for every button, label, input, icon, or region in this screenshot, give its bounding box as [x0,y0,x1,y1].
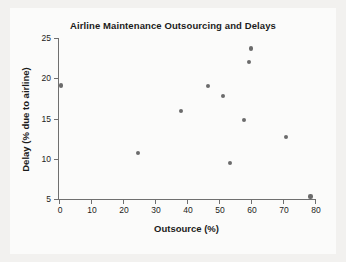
chart-figure: Airline Maintenance Outsourcing and Dela… [0,0,346,262]
x-axis-tick-label: 70 [279,205,288,215]
x-axis-tick-label: 50 [215,205,224,215]
y-axis-tick: 20 [54,78,59,79]
data-point [179,109,183,113]
x-axis-tick: 70 [283,199,284,204]
x-axis-tick-label: 10 [87,205,96,215]
x-axis-tick-label: 20 [119,205,128,215]
x-axis-tick-label: 40 [183,205,192,215]
x-axis-tick: 60 [251,199,252,204]
data-point [59,83,63,87]
y-axis-tick-label: 25 [42,33,51,43]
y-axis-tick: 25 [54,38,59,39]
x-axis-tick: 40 [187,199,188,204]
data-point [136,151,140,155]
y-axis-tick-label: 15 [42,114,51,124]
y-axis-tick: 10 [54,159,59,160]
x-axis-tick: 30 [155,199,156,204]
data-point [249,46,253,50]
y-axis-tick-label: 10 [42,154,51,164]
y-axis-tick-label: 20 [42,73,51,83]
y-axis-label-text: Delay (% due to airline) [20,67,31,172]
x-axis-tick-label: 30 [151,205,160,215]
x-axis-tick: 10 [91,199,92,204]
data-point [284,135,288,139]
x-axis-tick-label: 80 [311,205,320,215]
data-point [206,84,210,88]
x-axis-tick: 0 [59,199,60,204]
y-axis-label: Delay (% due to airline) [18,38,32,200]
data-point [308,194,312,198]
y-axis-tick: 15 [54,119,59,120]
data-point [228,161,232,165]
data-point [242,118,246,122]
y-axis-tick-label: 5 [46,194,51,204]
x-axis-tick: 20 [123,199,124,204]
data-point [247,60,251,64]
plot-area: 51015202501020304050607080 [58,38,315,200]
x-axis-tick-label: 60 [247,205,256,215]
chart-title: Airline Maintenance Outsourcing and Dela… [10,20,336,31]
x-axis-tick: 50 [219,199,220,204]
data-point [221,94,225,98]
x-axis-tick-label: 0 [58,205,63,215]
chart-card: Airline Maintenance Outsourcing and Dela… [10,8,336,254]
x-axis-tick: 80 [315,199,316,204]
x-axis-label: Outsource (%) [58,223,315,234]
